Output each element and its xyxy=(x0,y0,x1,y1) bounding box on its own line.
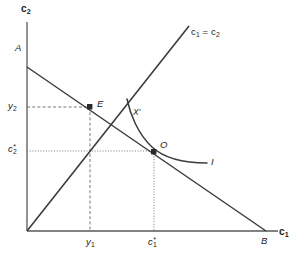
economics-diagram: c2 c1 A B c1 = c2 E O X' I y2 c2* y1 c1* xyxy=(0,0,296,253)
point-marker-O xyxy=(151,149,156,154)
x-axis-title: c1 xyxy=(279,227,289,237)
indifference-curve-label: I xyxy=(211,157,214,167)
y-tick-label-c2-star: c2* xyxy=(8,144,20,154)
y-axis-title: c2 xyxy=(21,4,31,14)
x-tick-label-y1: y1 xyxy=(86,237,95,247)
point-label-x-prime: X' xyxy=(133,108,141,117)
point-marker-E xyxy=(87,104,92,109)
certainty-line-label: c1 = c2 xyxy=(191,27,220,37)
point-label-e: E xyxy=(97,99,103,109)
y-tick-label-y2: y2 xyxy=(8,101,17,111)
budget-line-endpoint-label-b: B xyxy=(261,236,267,246)
certainty-line-45-degree xyxy=(27,26,189,231)
plot-canvas xyxy=(0,0,296,253)
budget-line-endpoint-label-a: A xyxy=(15,43,21,53)
point-label-o: O xyxy=(160,140,168,150)
budget-line xyxy=(27,67,266,231)
x-tick-label-c1-star: c1* xyxy=(148,237,160,247)
